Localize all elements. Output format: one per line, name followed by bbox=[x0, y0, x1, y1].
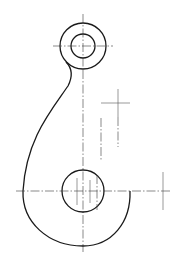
hook-outline bbox=[23, 62, 130, 246]
section-mark-upper bbox=[101, 89, 130, 160]
bottom-hole bbox=[16, 170, 172, 212]
hook-drawing bbox=[0, 0, 187, 263]
top-eye bbox=[53, 14, 113, 69]
